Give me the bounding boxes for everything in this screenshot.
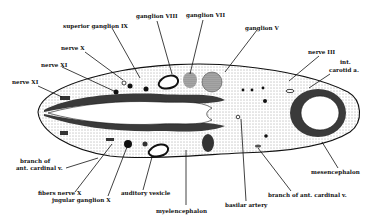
leader-branch-ant-cardinal-left	[66, 158, 98, 168]
basilar-artery-section	[236, 115, 240, 119]
nerve-x-ganglion	[128, 84, 133, 89]
jugular-ganglion-x	[124, 140, 132, 148]
label-branch-ant-cardinal-left-1: branch of	[20, 158, 51, 164]
lower-ganglion-mass	[202, 134, 214, 152]
label-basilar-artery: basilar artery	[225, 202, 268, 209]
mesencephalon-lumen	[301, 96, 339, 130]
label-ganglion-viii: ganglion VIII	[136, 13, 178, 20]
leader-auditory-vesicle	[143, 157, 152, 190]
label-branch-ant-cardinal-right: branch of ant. cardinal v.	[268, 192, 347, 198]
leader-mesencephalon	[322, 142, 338, 168]
label-int-carotid-2: carotid a.	[329, 67, 359, 73]
vessel-3	[262, 87, 265, 90]
ganglion-ix-small	[122, 81, 126, 85]
embryo-section-diagram: superior ganglion IX ganglion VIII gangl…	[0, 0, 369, 223]
nerve-xi-ganglion	[114, 90, 119, 95]
ganglion-ix	[144, 87, 149, 92]
vessel-1	[242, 89, 245, 92]
label-nerve-x: nerve X	[61, 45, 85, 51]
label-mesencephalon: mesencephalon	[311, 169, 360, 176]
int-carotid-vessel	[263, 99, 267, 103]
leader-branch-ant-cardinal-right	[258, 148, 291, 191]
label-nerve-iii: nerve III	[308, 49, 336, 55]
label-nerve-xi-upper: nerve XI	[41, 62, 68, 68]
ant-cardinal-branch-section	[255, 145, 261, 148]
label-branch-ant-cardinal-left-2: ant. cardinal v.	[16, 165, 63, 171]
label-nerve-xi-left: nerve XI	[12, 79, 39, 85]
label-fibers-nerve-x: fibers nerve X	[38, 190, 82, 196]
label-ganglion-vii: ganglion VII	[186, 12, 225, 19]
ganglion-v-mass	[202, 72, 222, 92]
nerve-iii-section	[286, 89, 294, 92]
label-jugular-ganglion-x: jugular ganglion X	[51, 197, 111, 204]
label-auditory-vesicle: auditory vesicle	[121, 190, 171, 197]
vessel-2	[251, 89, 254, 92]
fibers-nerve-x-mass	[106, 138, 114, 141]
label-int-carotid-1: int.	[340, 59, 351, 65]
label-myelencephalon: myelencephalon	[156, 208, 207, 215]
mid-lower-ganglion	[143, 142, 148, 147]
left-lower-mass	[60, 131, 68, 135]
ganglion-vii-viii-mass	[183, 72, 197, 88]
vessel-4	[264, 134, 268, 138]
label-superior-ganglion-ix: superior ganglion IX	[63, 23, 129, 30]
label-ganglion-v: ganglion V	[245, 25, 280, 32]
